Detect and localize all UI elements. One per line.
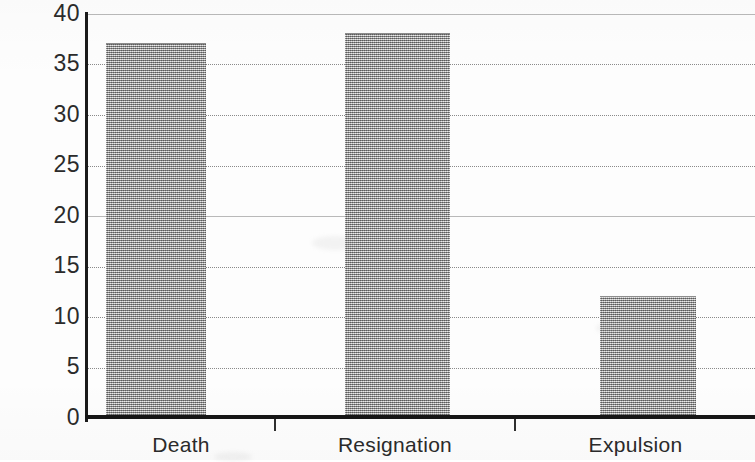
y-tick-label-40: 40 <box>8 0 80 27</box>
x-label-death: Death <box>88 433 274 457</box>
bar-resignation <box>345 33 450 418</box>
y-axis-line <box>85 12 88 422</box>
bar-death <box>106 43 206 418</box>
y-tick-label-20: 20 <box>8 202 80 229</box>
y-tick-label-30: 30 <box>8 101 80 128</box>
y-tick-label-15: 15 <box>8 252 80 279</box>
y-tick-label-0: 0 <box>8 404 80 431</box>
x-tick-1 <box>274 419 276 431</box>
x-axis-line <box>85 415 755 419</box>
y-tick-label-10: 10 <box>8 303 80 330</box>
y-tick-label-5: 5 <box>8 353 80 380</box>
bar-expulsion <box>600 296 696 418</box>
gridline-40 <box>88 14 755 16</box>
y-tick-label-25: 25 <box>8 151 80 178</box>
x-label-expulsion: Expulsion <box>516 433 755 457</box>
y-axis-tick-labels: 40 35 30 25 20 15 10 5 0 <box>0 0 80 460</box>
x-tick-2 <box>514 419 516 431</box>
x-label-resignation: Resignation <box>276 433 514 457</box>
plot-area <box>88 14 755 418</box>
y-tick-label-35: 35 <box>8 50 80 77</box>
